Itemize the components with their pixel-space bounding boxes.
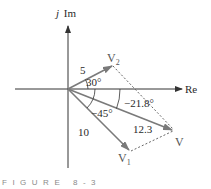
phasor-diagram: j Im Re V2 V1 V 5 10 12.3 30° −45° −21.8… [0,0,211,189]
v-magnitude-label: 12.3 [133,123,153,135]
imaginary-axis-label: j Im [54,7,76,19]
v2-angle-label: 30° [86,76,101,88]
v2-magnitude-label: 5 [80,64,86,76]
v1-angle-label: −45° [91,107,113,119]
v-angle-label: −21.8° [124,97,154,109]
vector-v2-label: V2 [107,51,120,67]
angle-arc-minus-21-8 [117,89,121,109]
real-axis-label: Re [185,83,197,95]
figure-caption: FIGURE 8-3 [2,178,101,187]
vector-v-label: V [175,135,184,149]
v1-magnitude-label: 10 [78,126,90,138]
vector-v1-arrow [68,89,129,150]
vector-v1-label: V1 [118,151,131,167]
